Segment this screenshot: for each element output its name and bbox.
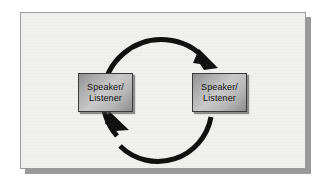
bottom-arc-path [120,117,211,161]
node-speaker-listener-left[interactable]: Speaker/ Listener [78,73,133,112]
figure-root: Speaker/ Listener Speaker/ Listener Two … [0,0,325,185]
diagram-panel: Speaker/ Listener Speaker/ Listener [20,12,306,169]
node-right-line-2: Listener [203,93,236,103]
node-right-line-1: Speaker/ [201,82,238,92]
figure-caption: Two identical Speaker/Listener boxes con… [0,0,1,1]
node-left-line-1: Speaker/ [87,82,124,92]
node-left-line-2: Listener [89,93,122,103]
node-speaker-listener-right[interactable]: Speaker/ Listener [192,73,247,112]
cycle-arrow-graphic [21,13,306,169]
